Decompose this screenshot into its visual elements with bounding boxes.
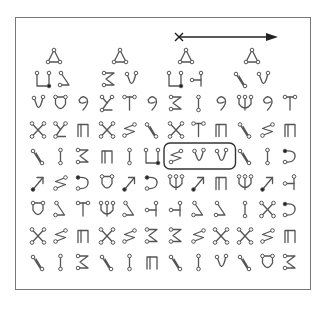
- n-slant-glyph: [238, 149, 251, 165]
- x-cross-glyph: [99, 228, 115, 245]
- n-slant-glyph: [145, 123, 158, 139]
- pi-glyph: [102, 151, 112, 163]
- arrow-diag-glyph: [261, 178, 273, 192]
- c-hook-glyph: [145, 176, 157, 191]
- y-hook-glyph: [193, 148, 206, 160]
- zigzag-glyph: [192, 229, 206, 244]
- pi-glyph: [216, 178, 226, 190]
- h-bar-glyph: [283, 175, 296, 190]
- triangle-glyph: [112, 48, 128, 64]
- w-fork-glyph: [99, 201, 115, 216]
- zigzag-glyph: [54, 176, 68, 191]
- z-branch-glyph: [54, 122, 68, 139]
- nine-glyph: [148, 97, 157, 110]
- y-hook-glyph: [32, 95, 45, 107]
- triangle-glyph: [178, 48, 194, 64]
- nine-glyph: [264, 97, 273, 110]
- w-fork-glyph: [237, 175, 253, 190]
- hook-left-glyph: [192, 201, 203, 217]
- figure-frame: [15, 17, 311, 290]
- pi-glyph: [78, 125, 88, 137]
- c-hook-glyph: [283, 149, 295, 164]
- y-hook-glyph: [215, 254, 228, 266]
- h-bar-glyph: [169, 201, 182, 216]
- three-glyph: [76, 148, 88, 164]
- triangle-glyph: [244, 48, 260, 64]
- hook-left-glyph: [58, 71, 69, 87]
- n-slant-glyph: [238, 123, 251, 139]
- zigzag-glyph: [261, 123, 275, 138]
- zigzag-glyph: [169, 149, 183, 164]
- u-square-glyph: [35, 71, 51, 88]
- i-bar-glyph: [197, 95, 201, 112]
- i-bar-glyph: [197, 254, 201, 271]
- arrow-head: [266, 33, 278, 41]
- u-round-glyph: [261, 254, 275, 267]
- i-bar-glyph: [266, 148, 270, 165]
- t-bar-glyph: [192, 122, 206, 137]
- pi-glyph: [285, 125, 295, 137]
- pi-glyph: [216, 125, 226, 137]
- u-square-glyph: [144, 148, 160, 165]
- pi-glyph: [147, 257, 157, 269]
- hook-left-glyph: [54, 201, 65, 217]
- w-fork-glyph: [168, 175, 184, 190]
- z-branch-glyph: [100, 95, 114, 112]
- i-bar-glyph: [59, 254, 63, 271]
- nine-glyph: [79, 97, 88, 110]
- y-hook-glyph: [215, 148, 228, 160]
- n-slant-glyph: [169, 255, 182, 271]
- nine-glyph: [217, 97, 226, 110]
- three-glyph: [283, 254, 295, 270]
- n-slant-glyph: [238, 255, 251, 271]
- n-slant-glyph: [234, 72, 247, 88]
- h-bar-glyph: [145, 201, 158, 216]
- i-bar-glyph: [128, 254, 132, 271]
- hook-left-glyph: [214, 201, 225, 217]
- i-bar-glyph: [128, 148, 132, 165]
- y-hook-glyph: [125, 71, 138, 83]
- t-bar-glyph: [76, 201, 90, 216]
- n-slant-glyph: [31, 255, 44, 271]
- pi-glyph: [78, 231, 88, 243]
- x-cross-glyph: [213, 228, 229, 245]
- y-hook-glyph: [257, 71, 270, 83]
- zigzag-glyph: [54, 229, 68, 244]
- i-bar-glyph: [243, 201, 247, 218]
- t-bar-glyph: [283, 95, 297, 110]
- n-slant-glyph: [31, 149, 44, 165]
- pi-glyph: [285, 231, 295, 243]
- u-round-glyph: [54, 95, 68, 108]
- x-cross-glyph: [237, 228, 253, 245]
- zigzag-glyph: [261, 229, 275, 244]
- direction-arrow: [175, 33, 278, 41]
- x-cross-glyph: [30, 228, 46, 245]
- triangle-glyph: [46, 48, 62, 64]
- x-cross-glyph: [99, 122, 115, 139]
- zigzag-glyph: [123, 123, 137, 138]
- three-glyph: [145, 228, 157, 244]
- arrow-diag-glyph: [192, 178, 204, 192]
- hook-left-glyph: [123, 201, 134, 217]
- i-bar-glyph: [59, 148, 63, 165]
- x-cross-glyph: [30, 122, 46, 139]
- three-glyph: [169, 95, 181, 111]
- arrow-diag-glyph: [123, 178, 135, 192]
- c-hook-glyph: [283, 202, 295, 217]
- x-cross-glyph: [168, 122, 184, 139]
- three-glyph: [102, 71, 114, 87]
- u-round-glyph: [100, 175, 114, 188]
- c-hook-glyph: [76, 176, 88, 191]
- three-glyph: [169, 228, 181, 244]
- h-bar-glyph: [190, 71, 203, 86]
- three-glyph: [76, 254, 88, 270]
- zigzag-glyph: [123, 229, 137, 244]
- w-fork-glyph: [237, 95, 253, 110]
- glyph-grid: [16, 18, 312, 291]
- t-bar-glyph: [123, 95, 137, 110]
- n-slant-glyph: [100, 255, 113, 271]
- x-cross-glyph: [260, 201, 276, 218]
- u-round-glyph: [31, 201, 45, 214]
- u-square-glyph: [167, 71, 183, 88]
- arrow-diag-glyph: [31, 178, 43, 192]
